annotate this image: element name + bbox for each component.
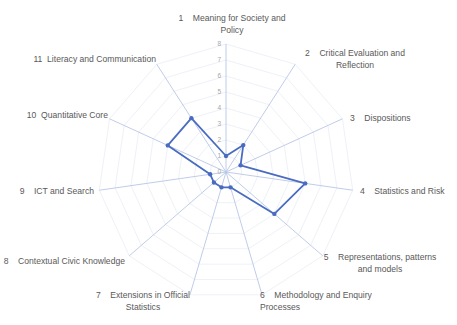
- data-point-marker: [303, 181, 307, 185]
- category-label: 5 Representations, patternsand models: [324, 252, 437, 274]
- category-label: 8 Contextual Civic Knowledge: [4, 256, 126, 266]
- category-label: 9 ICT and Search: [20, 186, 95, 196]
- data-point-marker: [228, 185, 232, 189]
- tick-label: 4: [217, 104, 221, 111]
- category-labels: 1 Meaning for Society andPolicy2 Critica…: [4, 13, 446, 312]
- radar-spokes: [99, 44, 352, 295]
- data-point-marker: [189, 116, 193, 120]
- category-label: 10 Quantitative Core: [27, 110, 108, 120]
- data-point-marker: [224, 154, 228, 158]
- data-point-marker: [208, 172, 212, 176]
- category-label: 1 Meaning for Society andPolicy: [178, 13, 285, 35]
- data-point-marker: [241, 143, 245, 147]
- tick-label: 0: [217, 168, 221, 175]
- category-label: 2 Critical Evaluation andReflection: [305, 48, 405, 70]
- tick-label: 3: [217, 120, 221, 127]
- category-label: 7 Extensions in OfficialStatistics: [96, 290, 190, 312]
- category-label: 4 Statistics and Risk: [360, 186, 445, 196]
- axis-spoke: [226, 172, 353, 190]
- tick-label: 1: [217, 152, 221, 159]
- tick-label: 8: [217, 40, 221, 47]
- tick-label: 7: [217, 56, 221, 63]
- tick-label: 6: [217, 72, 221, 79]
- data-point-marker: [166, 143, 170, 147]
- category-label: 3 Dispositions: [350, 113, 411, 123]
- category-label: 6 Methodology and EnquiryProcesses: [260, 290, 372, 312]
- radial-tick-labels: 012345678: [217, 40, 221, 175]
- data-point-marker: [272, 212, 276, 216]
- axis-spoke: [99, 172, 226, 190]
- data-series: [166, 116, 308, 216]
- category-label: 11 Literacy and Communication: [33, 54, 156, 64]
- data-point-marker: [212, 180, 216, 184]
- tick-label: 5: [217, 88, 221, 95]
- tick-label: 2: [217, 136, 221, 143]
- data-point-marker: [219, 185, 223, 189]
- data-point-marker: [238, 163, 242, 167]
- radar-chart: 012345678 1 Meaning for Society andPolic…: [0, 0, 457, 325]
